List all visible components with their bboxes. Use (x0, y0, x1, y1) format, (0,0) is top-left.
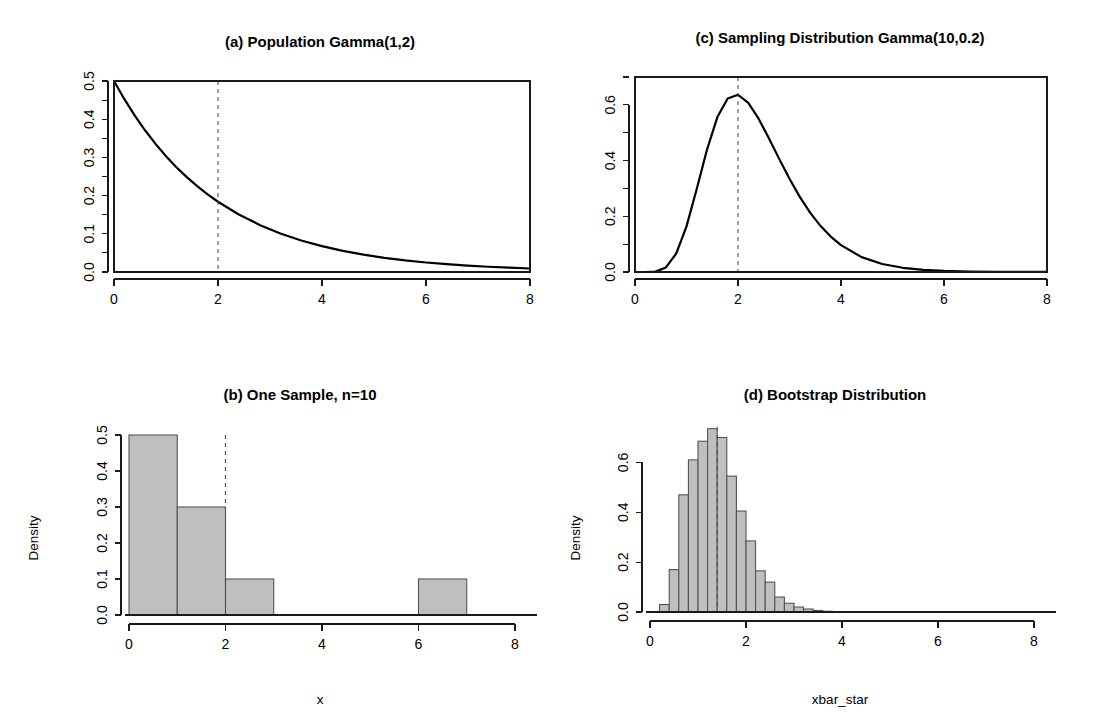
y-axis-tick-label: 0.0 (94, 605, 110, 625)
y-axis-tick-label: 0.5 (94, 425, 110, 445)
y-axis-tick-label: 0.2 (94, 533, 110, 553)
histogram-bar (419, 579, 467, 615)
panel-b-ylabel: Density (26, 515, 41, 560)
x-axis-tick-label: 2 (222, 636, 230, 652)
panel-b-title: (b) One Sample, n=10 (224, 386, 377, 403)
four-panel-figure: (a) Population Gamma(1,2) 0.00.10.20.30.… (0, 0, 1100, 725)
x-axis-tick-label: 8 (1030, 633, 1038, 649)
x-axis-tick-label: 6 (422, 291, 430, 307)
panel-d-bootstrap: (d) Bootstrap Distribution xbar_star Den… (550, 363, 1100, 725)
histogram-bar (775, 597, 785, 612)
y-axis-tick-label: 0.6 (615, 452, 631, 472)
histogram-bar (129, 435, 177, 615)
histogram-bar (727, 476, 737, 612)
histogram-bar (794, 607, 804, 612)
panel-c-title: (c) Sampling Distribution Gamma(10,0.2) (695, 29, 984, 46)
histogram-bar (177, 507, 225, 615)
x-axis-tick-label: 4 (318, 291, 326, 307)
x-axis-tick-label: 2 (734, 291, 742, 307)
y-axis-tick-label: 0.4 (602, 151, 618, 171)
panel-b-plot-area: 0.00.10.20.30.40.502468 (94, 425, 537, 652)
panel-b-xlabel: x (317, 692, 324, 707)
panel-d-ylabel: Density (568, 515, 583, 560)
x-axis-tick-label: 0 (646, 633, 654, 649)
y-axis-tick-label: 0.6 (602, 95, 618, 115)
histogram-bar (717, 437, 727, 612)
x-axis-tick-label: 2 (742, 633, 750, 649)
panel-a-population: (a) Population Gamma(1,2) 0.00.10.20.30.… (0, 0, 550, 362)
y-axis-tick-label: 0.4 (615, 502, 631, 522)
panel-a-svg: (a) Population Gamma(1,2) 0.00.10.20.30.… (0, 0, 550, 362)
y-axis-tick-label: 0.4 (81, 109, 97, 129)
histogram-bar (226, 579, 274, 615)
density-curve (635, 95, 1047, 272)
histogram-bar (669, 570, 679, 612)
x-axis-tick-label: 8 (526, 291, 534, 307)
panel-d-title: (d) Bootstrap Distribution (744, 386, 926, 403)
x-axis-tick-label: 4 (837, 291, 845, 307)
plot-box-frame (114, 81, 530, 272)
histogram-bar (679, 495, 689, 612)
x-axis-tick-label: 6 (934, 633, 942, 649)
panel-b-one-sample: (b) One Sample, n=10 x Density 0.00.10.2… (0, 363, 550, 725)
y-axis-tick-label: 0.2 (81, 186, 97, 206)
x-axis-tick-label: 0 (125, 636, 133, 652)
y-axis-tick-label: 0.1 (94, 569, 110, 589)
x-axis-tick-label: 8 (1043, 291, 1051, 307)
x-axis-tick-label: 6 (415, 636, 423, 652)
x-axis-tick-label: 0 (110, 291, 118, 307)
y-axis-tick-label: 0.1 (81, 224, 97, 244)
histogram-bar (746, 541, 756, 612)
y-axis-tick-label: 0.0 (602, 262, 618, 282)
histogram-bar (784, 603, 794, 612)
density-curve (114, 81, 530, 268)
histogram-bar (660, 605, 670, 612)
plot-box-frame (635, 77, 1047, 272)
panel-a-plot-area: 0.00.10.20.30.40.502468 (81, 71, 534, 307)
panel-d-svg: (d) Bootstrap Distribution xbar_star Den… (550, 363, 1100, 725)
panel-d-plot-area: 0.00.20.40.602468 (615, 427, 1056, 649)
y-axis-tick-label: 0.4 (94, 461, 110, 481)
y-axis-tick-label: 0.0 (81, 262, 97, 282)
x-axis-tick-label: 0 (631, 291, 639, 307)
histogram-bar (765, 582, 775, 612)
x-axis-tick-label: 8 (511, 636, 519, 652)
histogram-bar (688, 460, 698, 612)
y-axis-tick-label: 0.2 (615, 552, 631, 572)
panel-a-title: (a) Population Gamma(1,2) (225, 33, 415, 50)
y-axis-tick-label: 0.3 (94, 497, 110, 517)
panel-d-xlabel: xbar_star (812, 692, 869, 707)
panel-c-plot-area: 0.00.20.40.602468 (602, 77, 1051, 307)
histogram-bar (698, 441, 708, 612)
panel-c-svg: (c) Sampling Distribution Gamma(10,0.2) … (550, 0, 1100, 362)
x-axis-tick-label: 6 (940, 291, 948, 307)
histogram-bar (756, 571, 766, 612)
y-axis-tick-label: 0.3 (81, 147, 97, 167)
panel-b-svg: (b) One Sample, n=10 x Density 0.00.10.2… (0, 363, 550, 725)
x-axis-tick-label: 4 (838, 633, 846, 649)
y-axis-tick-label: 0.2 (602, 206, 618, 226)
histogram-bar (708, 429, 718, 612)
histogram-bar (736, 511, 746, 612)
x-axis-tick-label: 2 (214, 291, 222, 307)
x-axis-tick-label: 4 (318, 636, 326, 652)
y-axis-tick-label: 0.5 (81, 71, 97, 91)
panel-c-sampling-distribution: (c) Sampling Distribution Gamma(10,0.2) … (550, 0, 1100, 362)
y-axis-tick-label: 0.0 (615, 602, 631, 622)
